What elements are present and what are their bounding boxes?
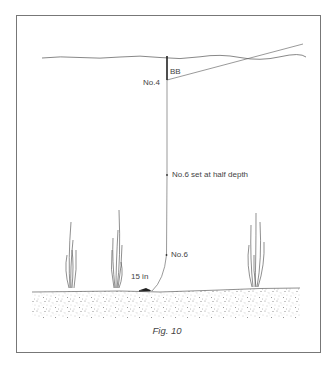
label-bb: BB (170, 68, 181, 76)
label-15in: 15 in (131, 273, 148, 281)
figure-caption: Fig. 10 (0, 325, 334, 336)
weed-left (66, 222, 76, 288)
water-surface (42, 55, 306, 60)
rig-diagram (0, 0, 334, 376)
weed-right (248, 213, 264, 287)
weed-middle (111, 210, 122, 288)
label-no6-half-depth: No.6 set at half depth (172, 171, 248, 179)
hook-line (152, 80, 167, 291)
label-no6: No.6 (171, 251, 188, 259)
main-line-to-rod (167, 44, 303, 80)
lake-bed (32, 288, 300, 318)
shot-no6-half (166, 174, 168, 176)
label-no4: No.4 (143, 79, 160, 87)
shot-no6 (166, 254, 168, 256)
